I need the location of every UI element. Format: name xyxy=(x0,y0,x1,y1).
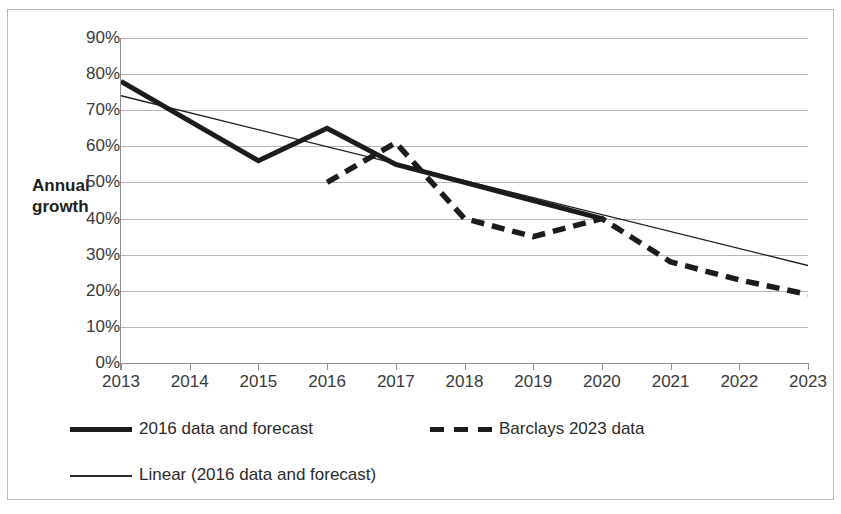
legend-label-2: Barclays 2023 data xyxy=(499,419,645,439)
x-tick-mark xyxy=(602,363,603,370)
legend-label-1: 2016 data and forecast xyxy=(139,419,313,439)
legend-label-3: Linear (2016 data and forecast) xyxy=(139,465,376,485)
legend-row-2: Linear (2016 data and forecast) xyxy=(8,460,835,490)
y-tick-label: 90% xyxy=(68,28,120,48)
series-line xyxy=(121,81,602,218)
x-tick-label: 2016 xyxy=(292,372,362,392)
legend-item-barclays-2023-data[interactable]: Barclays 2023 data xyxy=(430,414,645,444)
x-tick-label: 2018 xyxy=(430,372,500,392)
x-tick-mark xyxy=(739,363,740,370)
x-tick-mark xyxy=(396,363,397,370)
x-tick-label: 2021 xyxy=(636,372,706,392)
x-tick-mark xyxy=(808,363,809,370)
y-tick-label: 40% xyxy=(68,209,120,229)
y-axis-tick-labels: 90%80%70%60%50%40%30%20%10%0% xyxy=(68,10,120,400)
x-tick-label: 2020 xyxy=(567,372,637,392)
y-tick-label: 50% xyxy=(68,172,120,192)
x-tick-mark xyxy=(121,363,122,370)
chart-legend: 2016 data and forecast Barclays 2023 dat… xyxy=(8,402,835,500)
legend-row-1: 2016 data and forecast Barclays 2023 dat… xyxy=(8,414,835,444)
x-tick-mark xyxy=(190,363,191,370)
y-tick-label: 30% xyxy=(68,245,120,265)
x-tick-label: 2017 xyxy=(361,372,431,392)
y-tick-label: 70% xyxy=(68,100,120,120)
solid-thick-line-icon xyxy=(70,422,132,436)
x-tick-mark xyxy=(465,363,466,370)
y-tick-label: 10% xyxy=(68,317,120,337)
data-series-layer xyxy=(121,38,808,370)
x-tick-mark xyxy=(533,363,534,370)
thin-line-icon xyxy=(70,468,132,482)
chart-canvas: Annual growth 90%80%70%60%50%40%30%20%10… xyxy=(8,10,835,400)
legend-item-2016-data-and-forecast[interactable]: 2016 data and forecast xyxy=(70,414,313,444)
y-tick-label: 80% xyxy=(68,64,120,84)
y-tick-label: 60% xyxy=(68,136,120,156)
x-axis-tick-labels: 2013201420152016201720182019202020212022… xyxy=(121,372,808,400)
y-tick-label: 20% xyxy=(68,281,120,301)
x-tick-label: 2015 xyxy=(223,372,293,392)
series-line xyxy=(121,96,808,266)
legend-item-linear-trendline[interactable]: Linear (2016 data and forecast) xyxy=(70,460,376,490)
x-tick-mark xyxy=(327,363,328,370)
x-tick-label: 2014 xyxy=(155,372,225,392)
x-tick-mark xyxy=(258,363,259,370)
chart-frame: Annual growth 90%80%70%60%50%40%30%20%10… xyxy=(7,9,834,500)
x-tick-label: 2019 xyxy=(498,372,568,392)
x-tick-mark xyxy=(671,363,672,370)
x-tick-label: 2022 xyxy=(704,372,774,392)
y-tick-label: 0% xyxy=(68,353,120,373)
x-tick-label: 2013 xyxy=(86,372,156,392)
dashed-line-icon xyxy=(430,422,492,436)
x-tick-label: 2023 xyxy=(773,372,841,392)
